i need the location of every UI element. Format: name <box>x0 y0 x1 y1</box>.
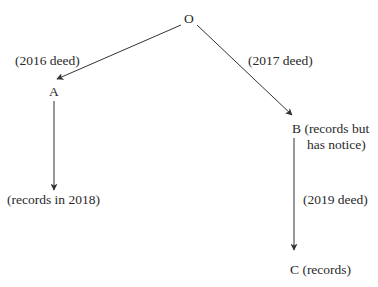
edge-o-b-label: (2017 deed) <box>248 53 313 69</box>
node-b-label-line2: has notice) <box>307 137 366 153</box>
node-o-label: O <box>184 11 194 27</box>
node-c-label: C (records) <box>290 262 351 278</box>
edge-b-c-label: (2019 deed) <box>303 192 368 208</box>
node-a-label: A <box>49 84 59 100</box>
edge-o-to-a-arrow <box>57 25 181 79</box>
node-b-label-line1: B (records but <box>292 121 369 137</box>
node-a-records-note: (records in 2018) <box>7 192 100 208</box>
edge-o-a-label: (2016 deed) <box>15 53 80 69</box>
edge-o-to-b-arrow <box>197 25 292 115</box>
